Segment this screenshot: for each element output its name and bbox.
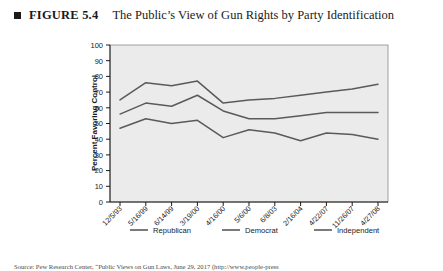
y-axis-tick-label: 0 [99,198,103,207]
line-chart: 0102030405060708090100 12/5/935/16/996/1… [0,30,443,252]
y-axis-tick-label: 10 [95,182,103,191]
x-axis-tick-label: 4/16/00 [204,204,228,228]
square-bullet-icon [14,12,21,19]
chart-legend: RepublicanDemocratIndependent [130,226,380,235]
plot-area-background [110,45,388,202]
source-note: Source: Pew Research Center, “Public Vie… [14,262,434,271]
x-axis-tick-label: 12/5/93 [100,204,124,228]
y-axis-tick-label: 100 [90,41,103,50]
x-axis-tick-label: 5/16/99 [126,204,150,228]
x-axis-tick-label: 4/22/07 [307,204,331,228]
x-axis-tick-label: 6/8/03 [258,204,279,225]
x-axis-tick-label: 6/14/99 [152,204,176,228]
figure-number-label: FIGURE 5.4 [29,8,98,23]
x-axis-tick-label: 3/19/00 [178,204,202,228]
figure-header: FIGURE 5.4 The Public’s View of Gun Righ… [0,0,443,30]
x-axis-tick-label: 2/16/04 [281,204,305,228]
x-axis-tick-label: 5/6/00 [232,204,253,225]
legend-label-democrat: Democrat [245,226,279,235]
x-axis-tick-label: 4/27/08 [358,204,382,228]
chart-container: 0102030405060708090100 12/5/935/16/996/1… [0,30,443,252]
legend-label-republican: Republican [153,226,191,235]
y-axis-title: Percent Favoring Control [90,75,99,171]
figure-title: The Public’s View of Gun Rights by Party… [112,8,394,23]
y-axis-tick-label: 90 [95,57,103,66]
legend-label-independent: Independent [337,226,380,235]
